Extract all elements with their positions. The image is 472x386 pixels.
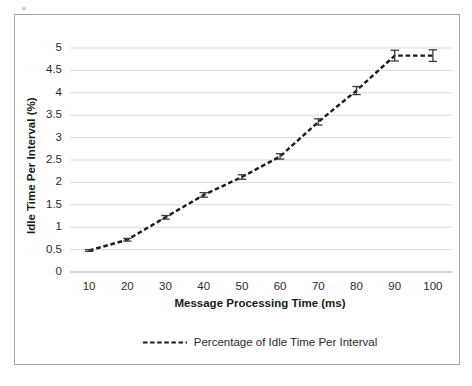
y-tick-label: 2 <box>16 176 62 188</box>
x-axis-title: Message Processing Time (ms) <box>60 298 460 310</box>
scan-speck <box>22 7 26 10</box>
y-tick-label: 1 <box>16 221 62 233</box>
chart-page: 00.511.522.533.544.55 102030405060708090… <box>0 0 472 386</box>
y-tick-label: 5 <box>16 42 62 54</box>
y-tick-label: 3 <box>16 132 62 144</box>
y-axis-title: Idle Time Per Interval (%) <box>26 86 38 246</box>
y-tick-label: 4 <box>16 87 62 99</box>
legend-entry-label: Percentage of Idle Time Per Interval <box>194 337 377 349</box>
y-tick-label: 0.5 <box>16 244 62 256</box>
y-tick-label: 2.5 <box>16 154 62 166</box>
y-tick-label: 1.5 <box>16 199 62 211</box>
y-tick-label: 0 <box>16 266 62 278</box>
y-tick-label: 3.5 <box>16 109 62 121</box>
chart-frame <box>14 14 460 365</box>
legend-line-swatch <box>143 341 187 344</box>
chart-legend: Percentage of Idle Time Per Interval <box>60 337 460 349</box>
y-tick-label: 4.5 <box>16 64 62 76</box>
x-tick-label: 100 <box>408 281 458 293</box>
